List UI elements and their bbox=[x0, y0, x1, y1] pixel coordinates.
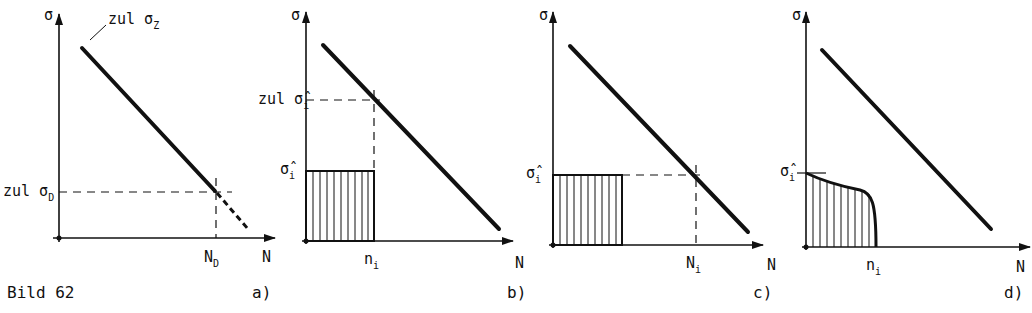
panel-tag: b) bbox=[507, 283, 526, 302]
woehler-line bbox=[822, 50, 991, 229]
x-marker-label: Ni bbox=[686, 254, 701, 275]
load-block bbox=[306, 171, 374, 241]
y-axis-label: σ bbox=[44, 6, 53, 24]
panel-d: σ N σ̂i ni d) bbox=[780, 6, 1030, 302]
panel-tag: c) bbox=[753, 283, 772, 302]
figure-caption: Bild 62 bbox=[7, 283, 74, 302]
y-axis-label: σ bbox=[792, 6, 801, 24]
line-label: zul σZ bbox=[108, 10, 159, 31]
panel-b: σ N zul σ̂i σ̂i ni b) bbox=[258, 6, 526, 302]
load-spectrum bbox=[806, 173, 876, 247]
woehler-line bbox=[82, 48, 215, 191]
origin-dot bbox=[804, 245, 809, 250]
origin-dot bbox=[57, 236, 62, 241]
y-marker-lower-label: σ̂i bbox=[280, 160, 296, 181]
panel-a: σ N zul σZ zul σD ND a) Bild 62 bbox=[3, 6, 275, 302]
load-block bbox=[553, 175, 622, 245]
y-marker-upper-label: zul σ̂i bbox=[258, 90, 310, 111]
panel-tag: a) bbox=[252, 283, 271, 302]
woehler-line-extension bbox=[217, 193, 248, 229]
x-axis-label: N bbox=[767, 256, 776, 274]
panel-c: σ N σ̂i Ni c) bbox=[526, 6, 776, 302]
woehler-line bbox=[323, 45, 499, 229]
y-marker-label: zul σD bbox=[3, 182, 54, 203]
leader-line bbox=[90, 25, 106, 40]
x-marker-label: ni bbox=[866, 256, 881, 277]
x-axis-label: N bbox=[515, 254, 524, 272]
y-marker-label: σ̂i bbox=[526, 164, 542, 185]
panel-tag: d) bbox=[1004, 283, 1023, 302]
y-axis-label: σ bbox=[291, 6, 300, 24]
x-axis-label: N bbox=[1016, 258, 1025, 276]
x-marker-label: ni bbox=[364, 250, 379, 271]
y-marker-label: σ̂i bbox=[780, 162, 796, 183]
x-marker-label: ND bbox=[204, 248, 219, 269]
y-axis-label: σ bbox=[539, 6, 548, 24]
woehler-line bbox=[570, 46, 748, 232]
x-axis-label: N bbox=[262, 248, 271, 266]
figure-bild-62: σ N zul σZ zul σD ND a) Bild 62 σ N bbox=[0, 0, 1032, 313]
